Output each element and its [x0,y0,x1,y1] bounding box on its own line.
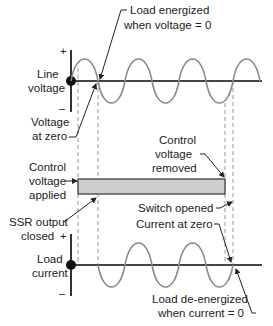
load-current-label-2: current [32,267,69,279]
switch-opened-arrow [216,202,232,208]
switch-opened-label: Switch opened [138,202,213,214]
load-energized-label-2: when voltage = 0 [123,19,211,31]
control-removed-label-2: voltage [155,148,192,160]
load-energized-arrow [100,10,127,79]
ssr-closed-arrow [64,198,96,222]
load-current-minus: – [59,287,66,299]
ssr-closed-label-1: SSR output [9,216,69,228]
line-voltage-label-1: Line [37,68,59,80]
ssr-timing-diagram: + – Line voltage + – Load current Load e… [0,0,273,326]
load-deenergized-label-2: when current = 0 [157,307,244,319]
current-at-zero-arrow [214,224,231,262]
control-applied-label-3: applied [29,189,66,201]
control-voltage-bar [78,179,225,194]
current-at-zero-label: Current at zero [136,218,213,230]
voltage-at-zero-arrow [69,84,96,137]
line-voltage-label-2: voltage [28,82,65,94]
control-removed-label-1: Control [159,134,196,146]
control-removed-label-3: removed [152,162,197,174]
line-voltage-minus: – [59,102,66,114]
load-deenergized-label-1: Load de-energized [152,293,248,305]
control-applied-label-1: Control [29,161,66,173]
load-energized-label-1: Load energized [130,4,209,16]
voltage-at-zero-label-2: at zero [32,130,67,142]
line-voltage-plus: + [60,45,66,57]
control-applied-label-2: voltage [29,175,66,187]
load-current-plus: + [60,230,66,242]
control-removed-arrow [200,154,224,177]
ssr-closed-label-2: closed [21,230,54,242]
voltage-at-zero-label-1: Voltage [31,116,69,128]
load-current-label-1: Load [37,253,63,265]
